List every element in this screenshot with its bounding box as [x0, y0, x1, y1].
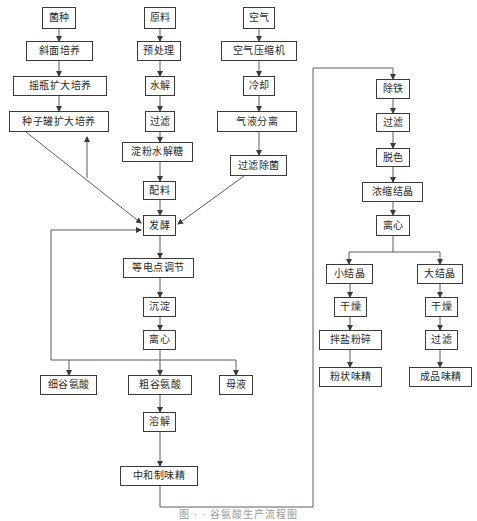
node-crude-glutamic-acid: 粗谷氨酸 — [128, 375, 192, 395]
node-pretreatment: 预处理 — [137, 41, 181, 61]
node-isoelectric-adjustment: 等电点调节 — [123, 258, 194, 278]
node-drying-2: 干燥 — [425, 297, 458, 317]
node-salt-mixing-grinding: 拌盐粉碎 — [319, 330, 382, 350]
node-centrifuge-2: 离心 — [376, 215, 410, 236]
node-small-crystals: 小结晶 — [326, 264, 373, 284]
node-drying-1: 干燥 — [334, 297, 367, 317]
node-batching: 配料 — [143, 181, 176, 200]
node-iron-removal: 除铁 — [376, 79, 410, 99]
node-concentration-crystallization: 浓缩结晶 — [362, 182, 423, 202]
figure-caption: 图 · · 谷氨酸生产流程图 — [0, 506, 477, 521]
node-air-compressor: 空气压缩机 — [221, 41, 297, 61]
node-decolorization: 脱色 — [376, 148, 410, 167]
node-raw-material: 原料 — [144, 7, 176, 29]
node-shake-flask-culture: 摇瓶扩大培养 — [13, 76, 107, 96]
node-gas-liquid-separation: 气液分离 — [217, 111, 297, 132]
node-slant-culture: 斜面培养 — [26, 41, 93, 61]
node-finished-msg: 成品味精 — [409, 367, 472, 387]
node-filtration-1: 过滤 — [145, 111, 175, 132]
node-air: 空气 — [243, 7, 275, 29]
node-fine-glutamic-acid: 细谷氨酸 — [40, 375, 97, 395]
node-powdered-msg: 粉状味精 — [319, 367, 382, 387]
node-centrifuge-1: 离心 — [143, 330, 176, 350]
node-cooling: 冷却 — [243, 76, 275, 96]
node-large-crystals: 大结晶 — [417, 264, 463, 284]
node-dissolution: 溶解 — [143, 412, 176, 432]
node-neutralize-msg: 中和制味精 — [120, 466, 198, 486]
node-sterile-filtration: 过滤除菌 — [230, 155, 287, 176]
node-precipitation: 沉淀 — [143, 297, 176, 317]
node-filtration-2: 过滤 — [376, 113, 410, 132]
node-filtration-3: 过滤 — [425, 330, 458, 350]
node-seed-tank-culture: 种子罐扩大培养 — [9, 111, 109, 132]
node-fermentation: 发酵 — [143, 215, 176, 236]
node-hydrolysis: 水解 — [145, 76, 175, 96]
node-mother-liquor: 母液 — [219, 375, 253, 395]
node-starch-hydrolysate: 淀粉水解糖 — [122, 142, 193, 162]
node-strain: 菌种 — [42, 7, 76, 29]
